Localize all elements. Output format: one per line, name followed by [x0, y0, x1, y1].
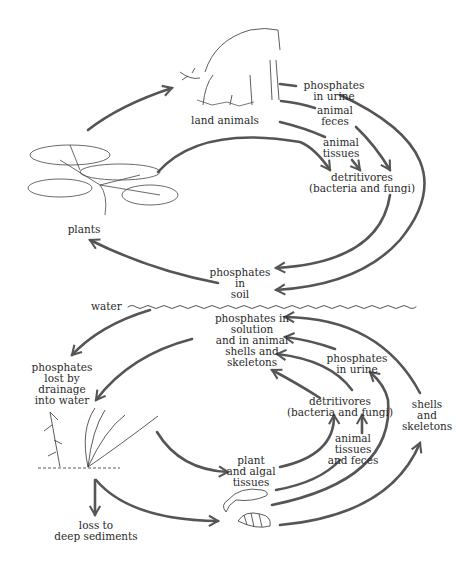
label-detritivores-land: detritivores (bacteria and fungi) — [309, 172, 415, 194]
label-phosphates-in-urine-water: phosphates in urine — [327, 353, 388, 375]
label-phosphates-in-urine-land: phosphates in urine — [304, 80, 365, 102]
fish-icon — [223, 489, 267, 512]
aquatic-plants-icon — [38, 408, 158, 468]
label-phosphates-lost-by-drainage: phosphates lost by drainage into water — [32, 362, 93, 406]
label-detritivores-water: detritivores (bacteria and fungi) — [287, 396, 393, 418]
label-phosphates-in-solution: phosphates in solution and in animal she… — [215, 313, 289, 368]
arrow-plants-to-animals — [88, 88, 172, 130]
snail-shell-icon — [238, 513, 270, 527]
label-shells-and-skeletons: shells and skeletons — [402, 399, 452, 432]
label-loss-to-deep-sediments: loss to deep sediments — [54, 520, 137, 542]
arrow-plants-to-detritivores — [158, 137, 330, 172]
pine-tree-icon — [28, 145, 178, 215]
label-animal-tissues-and-feces: animal tissues and feces — [328, 433, 379, 466]
label-water: water — [91, 301, 122, 312]
phosphorus-cycle-diagram: phosphates in urine animal feces land an… — [0, 0, 472, 566]
label-land-animals: land animals — [191, 115, 259, 126]
label-plant-and-algal-tissues: plant and algal tissues — [226, 455, 275, 488]
label-animal-feces: animal feces — [317, 105, 353, 127]
label-animal-tissues-land: animal tissues — [323, 137, 360, 159]
deer-icon — [180, 29, 280, 107]
label-plants: plants — [68, 224, 101, 235]
label-phosphates-in-soil: phosphates in soil — [210, 267, 271, 300]
water-surface-line — [128, 306, 416, 309]
line-urine — [280, 84, 296, 86]
